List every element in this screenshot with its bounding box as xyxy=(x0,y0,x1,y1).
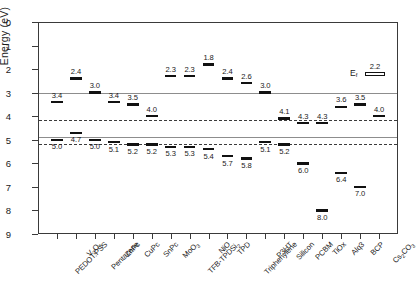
y-tick-label: 5 xyxy=(0,134,11,145)
y-tick-mark xyxy=(32,163,38,164)
level-bar xyxy=(184,75,196,77)
level-bar xyxy=(203,148,215,150)
level-bar xyxy=(335,106,347,108)
level-bar xyxy=(297,122,309,124)
x-tick-mark xyxy=(379,234,380,239)
level-bar xyxy=(70,77,82,79)
level-bar xyxy=(108,101,120,103)
level-value-label: 5.3 xyxy=(184,149,194,158)
x-tick-mark xyxy=(133,234,134,239)
level-value-label: 3.0 xyxy=(260,81,270,90)
level-bar xyxy=(259,141,271,143)
level-value-label: 5.3 xyxy=(165,149,175,158)
fermi-level-label: Ef xyxy=(350,68,357,78)
level-value-label: 2.3 xyxy=(165,65,175,74)
x-tick-mark xyxy=(303,234,304,239)
level-value-label: 2.6 xyxy=(241,72,251,81)
y-tick-mark xyxy=(32,210,38,211)
level-bar xyxy=(222,77,234,79)
x-axis-label-cupc: CuPc xyxy=(142,240,161,259)
level-bar xyxy=(146,143,158,145)
level-value-label: 5.0 xyxy=(52,142,62,151)
y-tick-label: 9 xyxy=(0,229,11,240)
level-bar xyxy=(146,115,158,117)
level-bar xyxy=(297,162,309,164)
x-axis-label-tiox: TiOx xyxy=(331,240,348,257)
level-value-label: 5.2 xyxy=(128,147,138,156)
y-tick-label: 6 xyxy=(0,158,11,169)
level-value-label: 5.7 xyxy=(222,159,232,168)
level-value-label: 4.7 xyxy=(71,135,81,144)
x-tick-mark xyxy=(227,234,228,239)
level-bar xyxy=(108,141,120,143)
x-tick-mark xyxy=(341,234,342,239)
reference-line-dashed xyxy=(39,120,397,121)
y-tick-mark xyxy=(32,69,38,70)
level-bar xyxy=(335,172,347,174)
y-tick-mark xyxy=(32,140,38,141)
x-axis-label-cs-co: Cs2CO3 xyxy=(391,240,416,265)
x-axis-label-v-o: V2O5 xyxy=(85,240,103,258)
level-value-label: 4.0 xyxy=(374,105,384,114)
y-tick-label: 0 xyxy=(0,17,11,28)
fermi-level-value: 2.2 xyxy=(370,62,381,71)
level-value-label: 7.0 xyxy=(355,189,365,198)
level-bar xyxy=(278,117,290,119)
x-tick-mark xyxy=(171,234,172,239)
level-bar xyxy=(51,101,63,103)
y-tick-label: 4 xyxy=(0,111,11,122)
level-bar xyxy=(278,143,290,145)
level-bar xyxy=(316,209,328,211)
level-value-label: 3.0 xyxy=(90,81,100,90)
level-bar xyxy=(316,122,328,124)
x-axis-label-alq3: Alq3 xyxy=(349,240,366,257)
y-tick-mark xyxy=(32,93,38,94)
x-tick-mark xyxy=(76,234,77,239)
y-tick-label: 1 xyxy=(0,40,11,51)
x-tick-mark xyxy=(57,234,58,239)
y-tick-mark xyxy=(32,234,38,235)
level-value-label: 5.2 xyxy=(279,147,289,156)
level-bar xyxy=(127,103,139,105)
plot-area xyxy=(38,22,398,234)
x-axis-label-moo: MoO3 xyxy=(180,240,200,260)
level-bar xyxy=(222,155,234,157)
x-tick-mark xyxy=(284,234,285,239)
level-bar xyxy=(354,186,366,188)
x-tick-mark xyxy=(190,234,191,239)
x-tick-mark xyxy=(360,234,361,239)
y-tick-mark xyxy=(32,116,38,117)
level-value-label: 6.4 xyxy=(336,175,346,184)
y-tick-mark xyxy=(32,46,38,47)
level-bar xyxy=(241,157,253,159)
level-value-label: 8.0 xyxy=(317,213,327,222)
y-tick-mark xyxy=(32,22,38,23)
x-tick-mark xyxy=(322,234,323,239)
level-value-label: 6.0 xyxy=(298,166,308,175)
level-value-label: 5.8 xyxy=(241,161,251,170)
y-tick-label: 3 xyxy=(0,87,11,98)
level-bar xyxy=(373,115,385,117)
level-bar xyxy=(354,103,366,105)
x-tick-mark xyxy=(265,234,266,239)
level-value-label: 3.5 xyxy=(355,93,365,102)
y-tick-mark xyxy=(32,187,38,188)
level-value-label: 3.4 xyxy=(52,91,62,100)
level-value-label: 3.5 xyxy=(128,93,138,102)
level-value-label: 3.4 xyxy=(109,91,119,100)
level-value-label: 4.3 xyxy=(298,112,308,121)
level-value-label: 5.1 xyxy=(109,145,119,154)
level-value-label: 3.6 xyxy=(336,95,346,104)
x-axis-label-bcp: BCP xyxy=(369,240,386,257)
level-bar xyxy=(259,91,271,93)
level-value-label: 2.4 xyxy=(222,67,232,76)
level-value-label: 4.3 xyxy=(317,112,327,121)
level-bar xyxy=(51,139,63,141)
level-bar xyxy=(203,63,215,65)
x-tick-mark xyxy=(246,234,247,239)
level-value-label: 2.4 xyxy=(71,67,81,76)
level-value-label: 5.0 xyxy=(90,142,100,151)
x-tick-mark xyxy=(152,234,153,239)
level-value-label: 4.1 xyxy=(279,107,289,116)
level-value-label: 2.3 xyxy=(184,65,194,74)
